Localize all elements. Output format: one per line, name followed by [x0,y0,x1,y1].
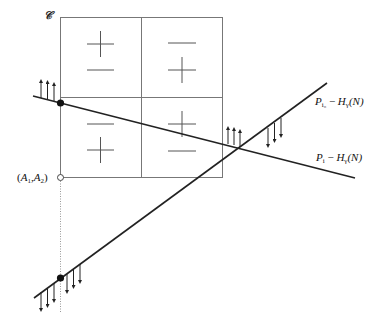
p-i-line [33,96,355,178]
h-argument: (N) [347,151,362,163]
point-a1-a2-open [58,175,64,181]
h-argument: (N) [349,95,364,107]
point-a1-a2-label: (A1,A2) [17,172,48,185]
p-i0-line [34,83,327,298]
p-symbol: P [316,151,323,163]
up-arrows-intersection [228,128,240,147]
sign-plus-icon [87,137,114,163]
point-pi0-dot [57,274,64,281]
region-label: 𝒞 [44,9,52,22]
point-pi-dot [57,99,64,106]
sign-plus-icon [168,57,196,83]
minus-sign: − [325,151,337,163]
p-symbol: P [315,95,322,107]
region-grid [61,18,223,178]
sign-plus-icon [87,31,114,57]
p-i0-line-label: Pi₀ − Hγ(N) [315,96,364,109]
minus-sign: − [326,95,338,107]
sign-plus-icon [168,111,196,137]
h-symbol: H [338,95,346,107]
paren-close: ) [44,171,48,183]
p-i-line-label: Pi − Hγ(N) [316,152,362,165]
